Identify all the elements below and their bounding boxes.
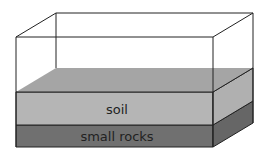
terrarium-diagram: soil small rocks: [0, 0, 269, 159]
small-rocks-label: small rocks: [80, 129, 153, 144]
soil-label: soil: [106, 102, 128, 117]
soil-layer-top: [16, 68, 253, 92]
